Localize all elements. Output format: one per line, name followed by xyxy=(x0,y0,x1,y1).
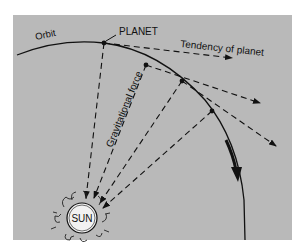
planet-point xyxy=(144,63,149,68)
planet-point xyxy=(210,109,215,114)
planet-point xyxy=(180,79,185,84)
orbit-diagram: Orbit PLANET Tendency of planet Gravitat… xyxy=(0,0,305,250)
sun-label: SUN xyxy=(71,213,92,224)
planet-label: PLANET xyxy=(119,26,158,37)
planet-point xyxy=(102,41,107,46)
